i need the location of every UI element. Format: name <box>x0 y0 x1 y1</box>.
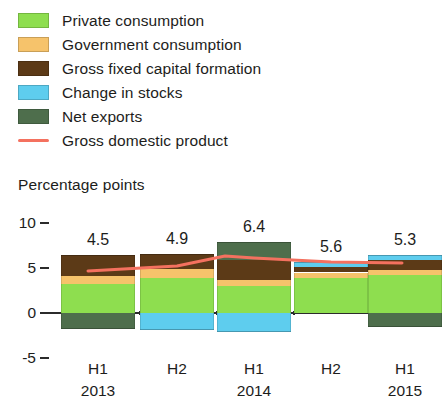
bar-segment <box>140 313 214 330</box>
bar-bottom-edge <box>368 326 442 327</box>
bar-segment <box>61 255 135 276</box>
bar-segment <box>368 313 442 327</box>
bar-segment <box>217 242 291 260</box>
bar-bottom-edge <box>61 328 135 329</box>
bar-segment <box>294 267 368 272</box>
bar-segment <box>61 284 135 313</box>
bar-group[interactable] <box>61 0 135 407</box>
bar-segment <box>140 254 214 269</box>
y-axis-tick-label: 5 <box>2 259 36 277</box>
bar-segment <box>294 278 368 313</box>
y-axis-tick-label: 0 <box>2 304 36 322</box>
bar-bottom-edge <box>140 329 214 330</box>
y-axis-tick-mark <box>40 267 49 269</box>
bar-group[interactable] <box>368 0 442 407</box>
bar-segment <box>217 313 291 332</box>
bar-segment <box>217 286 291 313</box>
bar-segment <box>61 276 135 284</box>
chart-plot-area: 1050-54.5H120134.9H26.4H120145.6H25.3H12… <box>0 0 444 407</box>
bar-segment <box>140 269 214 278</box>
bar-segment <box>294 273 368 278</box>
bar-group[interactable] <box>294 0 368 407</box>
bar-bottom-edge <box>217 331 291 332</box>
bar-top-edge <box>61 255 135 256</box>
bar-segment <box>368 260 442 270</box>
bar-top-edge <box>217 242 291 243</box>
bar-group[interactable] <box>217 0 291 407</box>
bar-segment <box>217 260 291 280</box>
bar-segment <box>140 278 214 313</box>
bar-group[interactable] <box>140 0 214 407</box>
y-axis-tick-mark <box>40 312 49 314</box>
bar-top-edge <box>294 262 368 263</box>
bar-segment <box>368 275 442 313</box>
bar-top-edge <box>140 254 214 255</box>
bar-top-edge <box>368 255 442 256</box>
y-axis-tick-label: 10 <box>2 214 36 232</box>
y-axis-tick-label: -5 <box>2 349 36 367</box>
bar-segment <box>61 313 135 329</box>
y-axis-tick-mark <box>40 222 49 224</box>
bar-segment <box>368 270 442 275</box>
bar-segment <box>217 280 291 286</box>
y-axis-tick-mark <box>40 357 49 359</box>
